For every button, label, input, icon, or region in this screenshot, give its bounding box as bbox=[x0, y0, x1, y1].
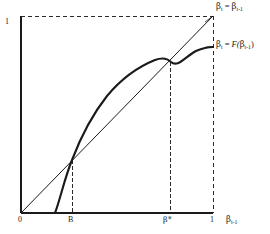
curve-beta-arg: β bbox=[240, 39, 245, 49]
x-axis-tick-beta-star: β* bbox=[163, 216, 172, 224]
response-curve-annotation: βt = F(βt-1) bbox=[216, 40, 254, 49]
curve-paren-close: ) bbox=[251, 39, 254, 49]
identity-beta-rhs: β bbox=[232, 1, 237, 11]
x-axis-tick-threshold-b: B bbox=[68, 216, 73, 224]
identity-line-annotation: βt = βt-1 bbox=[216, 2, 243, 11]
figure-canvas: 1 0 B β* 1 βt-1 βt = βt-1 βt = F(βt-1) bbox=[0, 0, 270, 234]
curve-equals: = bbox=[223, 39, 232, 49]
x-axis-title: βt-1 bbox=[226, 215, 237, 224]
identity-sub-t: t bbox=[221, 6, 223, 12]
x-axis-tick-origin: 0 bbox=[18, 216, 22, 224]
identity-label-leader bbox=[205, 16, 213, 22]
phase-diagram-svg bbox=[0, 0, 270, 234]
x-axis-tick-unit: 1 bbox=[210, 216, 214, 224]
curve-sub-t-1: t-1 bbox=[245, 44, 251, 50]
curve-sub-t: t bbox=[221, 44, 223, 50]
curve-F-open: F( bbox=[232, 39, 240, 49]
identity-line-45deg bbox=[21, 16, 213, 213]
response-curve-F bbox=[55, 47, 213, 213]
x-axis-title-subscript: t-1 bbox=[231, 219, 237, 225]
identity-sub-t-1: t-1 bbox=[237, 6, 243, 12]
y-axis-tick-one: 1 bbox=[5, 18, 9, 26]
identity-equals: = bbox=[223, 1, 232, 11]
